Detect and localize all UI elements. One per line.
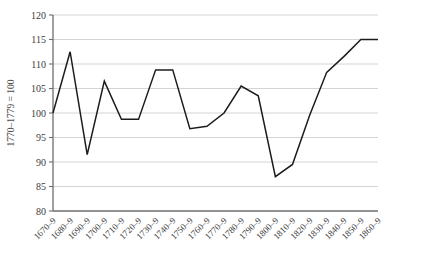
y-axis-group: 80859095100105110115120 (31, 10, 378, 217)
y-axis-title: 1770–1779 = 100 (6, 79, 16, 146)
x-axis-group: 1670–91680–91690–91700–91710–91720–91730… (32, 215, 384, 242)
y-tick-label: 105 (31, 83, 46, 94)
y-tick-label: 85 (36, 181, 46, 192)
y-tick-label: 80 (36, 206, 46, 217)
y-axis-title-text: 1770–1779 = 100 (6, 79, 16, 146)
y-tick-label: 95 (36, 132, 46, 143)
y-tick-label: 120 (31, 10, 46, 21)
y-tick-label: 115 (31, 34, 46, 45)
line-chart: 1770–1779 = 100 80859095100105110115120 … (0, 0, 438, 263)
y-tick-label: 100 (31, 108, 46, 119)
y-tick-label: 110 (31, 59, 46, 70)
chart-container: 1770–1779 = 100 80859095100105110115120 … (0, 0, 438, 263)
y-tick-label: 90 (36, 157, 46, 168)
data-series-line (53, 40, 378, 177)
